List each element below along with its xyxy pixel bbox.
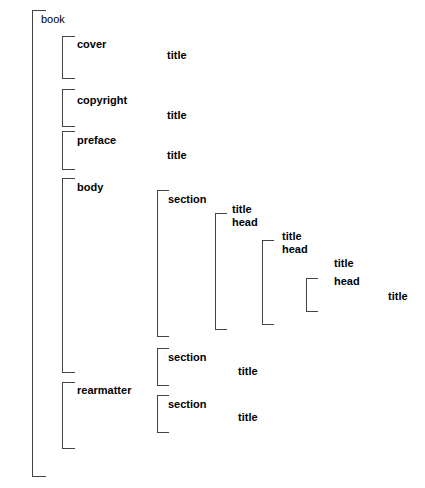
leaf-sub4-head: head bbox=[334, 276, 360, 287]
tree-diagram-canvas: book cover title copyright title preface… bbox=[0, 0, 425, 488]
leaf-sub5-title: title bbox=[388, 291, 408, 302]
node-section-3: section bbox=[168, 399, 207, 410]
leaf-cover-title: title bbox=[167, 50, 187, 61]
leaf-section-2-title: title bbox=[238, 366, 258, 377]
node-copyright: copyright bbox=[77, 95, 127, 106]
node-preface: preface bbox=[77, 135, 116, 146]
leaf-sub2-head: head bbox=[232, 217, 258, 228]
leaf-sub3-head: head bbox=[282, 244, 308, 255]
bracket-body bbox=[62, 178, 75, 373]
node-section-2: section bbox=[168, 352, 207, 363]
bracket-copyright bbox=[62, 89, 75, 127]
node-rearmatter: rearmatter bbox=[77, 385, 131, 396]
node-cover: cover bbox=[77, 39, 106, 50]
bracket-sublevel-2 bbox=[215, 213, 227, 330]
leaf-preface-title: title bbox=[167, 150, 187, 161]
bracket-section-1 bbox=[157, 190, 169, 337]
node-section-1: section bbox=[168, 194, 207, 205]
bracket-sublevel-4 bbox=[306, 278, 318, 312]
bracket-rearmatter bbox=[62, 382, 75, 449]
bracket-sublevel-3 bbox=[262, 240, 274, 325]
bracket-preface bbox=[62, 131, 75, 170]
leaf-section-3-title: title bbox=[238, 412, 258, 423]
bracket-cover bbox=[62, 36, 75, 79]
node-body: body bbox=[77, 182, 103, 193]
leaf-sub4-title: title bbox=[334, 258, 354, 269]
node-book: book bbox=[41, 14, 65, 25]
leaf-copyright-title: title bbox=[167, 110, 187, 121]
bracket-root bbox=[32, 10, 46, 477]
leaf-sub3-title: title bbox=[282, 231, 302, 242]
leaf-sub2-title: title bbox=[232, 204, 252, 215]
